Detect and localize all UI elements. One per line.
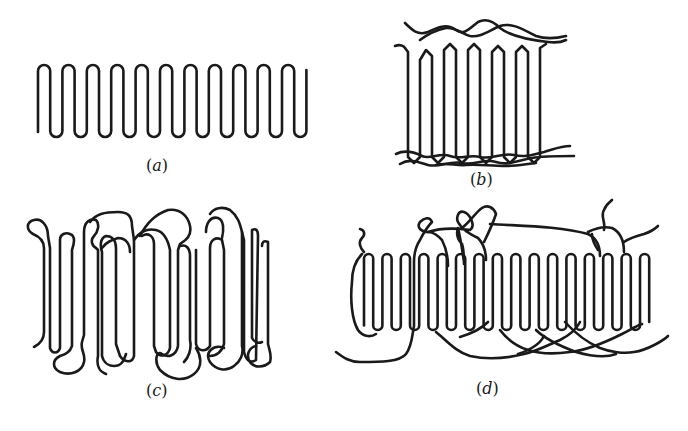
panel-label-a: (a)	[146, 158, 168, 174]
panel-label-b: (b)	[470, 172, 493, 188]
panel-letter-b: b	[476, 170, 486, 189]
panel-label-c: (c)	[146, 383, 167, 399]
chain-folding-figure	[0, 0, 688, 431]
panel-c-switchboard	[28, 208, 271, 379]
panel-d-adjacent-with-ties	[336, 200, 658, 362]
panel-a-folded-chain	[38, 65, 306, 137]
panel-label-d: (d)	[476, 381, 499, 397]
panel-b-loose-loops	[395, 20, 574, 166]
panel-letter-d: d	[482, 379, 492, 398]
panel-letter-a: a	[152, 156, 162, 175]
panel-letter-c: c	[152, 381, 161, 400]
